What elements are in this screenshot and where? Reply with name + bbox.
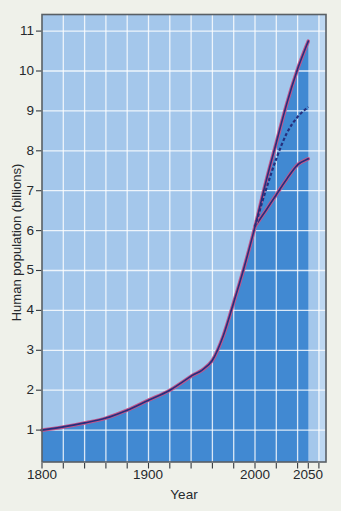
y-tick-label-11: 11 (0, 24, 34, 38)
population-chart-canvas (0, 0, 341, 511)
y-tick-label-10: 10 (0, 64, 34, 78)
y-tick-label-9: 9 (0, 104, 34, 118)
y-tick-label-1: 1 (0, 423, 34, 437)
x-tick-label-1900: 1900 (126, 468, 170, 482)
x-axis-title: Year (162, 488, 206, 502)
x-tick-label-1800: 1800 (20, 468, 64, 482)
plot-right-margin-strip (319, 15, 326, 463)
x-tick-label-2000: 2000 (233, 468, 277, 482)
population-growth-figure: 11 10 9 8 7 6 5 4 3 2 1 1800 1900 2000 2… (0, 0, 341, 511)
y-tick-label-2: 2 (0, 383, 34, 397)
x-tick-label-2050: 2050 (286, 468, 330, 482)
y-axis-title: Human population (billions) (9, 133, 24, 353)
